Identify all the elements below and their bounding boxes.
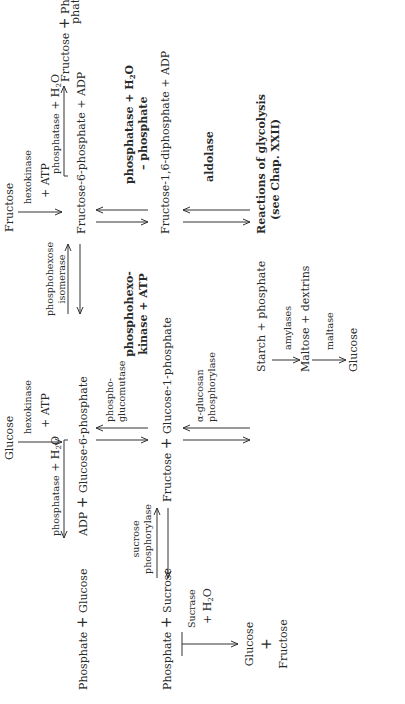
hydrolysis-glucose: Glucose [244, 614, 256, 674]
phosphohexokinase-label-1: phosphohexo- [124, 264, 136, 364]
atp-label-glucose: + ATP [40, 393, 52, 428]
glycolysis-label-2: (see Chap. XXII) [270, 119, 282, 220]
plus-sign: + [74, 616, 90, 628]
phosphoglucomutase-label-2: glucomutase [116, 361, 127, 422]
isomerase-label-1: phosphohexose [44, 234, 55, 324]
fructose-source: Fructose [4, 183, 16, 232]
sucrase-h2o: + H2O [202, 588, 214, 624]
hydrolysis-fructose: Fructose [278, 614, 290, 674]
f6p-adp: Fructose-6-phosphate + ADP [76, 72, 88, 234]
glucose-source: Glucose [4, 416, 16, 460]
hydrolysis-plus: + [260, 614, 272, 674]
glucose-label: Glucose [77, 569, 90, 613]
phosphate-sucrose: Phosphate + Sucrose [160, 568, 174, 690]
starch-phosphate: Starch + phosphate [256, 261, 268, 372]
aldolase-label: aldolase [204, 131, 216, 182]
alpha-glucosan-label-2: phosphorylase [206, 352, 217, 422]
fdp-adp: Fructose-1,6-diphosphate + ADP [160, 51, 172, 234]
fdp-phosphatase-label-2: – phosphate [138, 97, 150, 170]
maltase-label: maltase [324, 312, 335, 350]
sucrase-label: Sucrase [186, 589, 197, 628]
maltose-dextrins: Maltose + dextrins [300, 266, 312, 372]
hexokinase-label-glucose: hexokinase [22, 380, 33, 434]
f6p-phosphatase-label: phosphatase + H2O [50, 74, 62, 174]
phosphate-continuation: phate [70, 0, 82, 24]
g6p-phosphatase-label: phosphatase + H2O [50, 436, 62, 536]
phosphoglucomutase-label-1: phospho- [104, 378, 115, 422]
hexokinase-label-fructose: hexokinase [22, 150, 33, 204]
sucrose-phosphorylase-label-1: sucrose [130, 504, 141, 574]
final-glucose: Glucose [348, 328, 360, 372]
adp-g6p: ADP + Glucose-6-phosphate [76, 376, 90, 536]
fructose-g1p: Fructose + Glucose-1-phosphate [160, 317, 174, 502]
phosphohexokinase-label-2: kinase + ATP [138, 264, 150, 364]
row1-left-products: Phosphate + Glucose [76, 569, 90, 690]
alpha-glucosan-label-1: α-glucosan [194, 369, 205, 422]
sucrose-phosphorylase-label-2: phosphorylase [142, 500, 153, 578]
metabolic-pathway-diagram: Glucose hexokinase + ATP Fructose hexoki… [0, 0, 405, 704]
amylases-label: amylases [282, 306, 293, 350]
fdp-phosphatase-label-1: phosphatase + H2O [124, 65, 136, 184]
glycolysis-label-1: Reactions of glycolysis [256, 94, 268, 234]
phosphate-label: Phosphate [77, 632, 90, 690]
isomerase-label-2: isomerase [56, 234, 67, 324]
